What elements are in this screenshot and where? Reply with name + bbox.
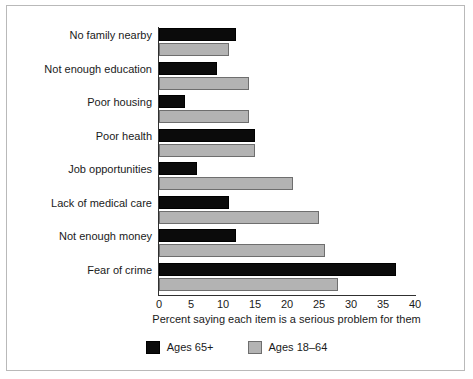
chart-legend: Ages 65+Ages 18–64: [0, 338, 473, 356]
x-tick-label: 40: [400, 298, 430, 311]
category-label: Poor health: [4, 130, 152, 142]
x-tick-label: 15: [240, 298, 270, 311]
bar-group: [159, 228, 415, 262]
x-tick-label: 30: [336, 298, 366, 311]
legend-swatch-light: [248, 341, 262, 354]
bar-ages-65-plus: [159, 28, 236, 41]
legend-item: Ages 65+: [146, 341, 214, 354]
bar-ages-65-plus: [159, 263, 396, 276]
bar-group: [159, 128, 415, 162]
x-tick-label: 25: [304, 298, 334, 311]
bar-ages-65-plus: [159, 196, 229, 209]
legend-swatch-dark: [146, 341, 160, 354]
bar-chart-figure: No family nearbyNot enough educationPoor…: [0, 0, 473, 379]
x-tick-label: 0: [144, 298, 174, 311]
bar-ages-18-64: [159, 110, 249, 123]
legend-label: Ages 18–64: [269, 341, 328, 354]
bar-group: [159, 195, 415, 229]
category-label: No family nearby: [4, 29, 152, 41]
category-label: Lack of medical care: [4, 197, 152, 209]
legend-item: Ages 18–64: [248, 341, 328, 354]
x-tick-label: 10: [208, 298, 238, 311]
category-label: Fear of crime: [4, 264, 152, 276]
x-axis-title: Percent saying each item is a serious pr…: [0, 313, 473, 326]
bar-ages-18-64: [159, 211, 319, 224]
bar-group: [159, 161, 415, 195]
plot-area: [159, 27, 415, 295]
bar-ages-65-plus: [159, 62, 217, 75]
bar-ages-65-plus: [159, 162, 197, 175]
bar-ages-65-plus: [159, 229, 236, 242]
x-tick-label: 5: [176, 298, 206, 311]
bar-ages-18-64: [159, 278, 338, 291]
x-tick-label: 20: [272, 298, 302, 311]
bar-ages-18-64: [159, 244, 325, 257]
bar-ages-18-64: [159, 43, 229, 56]
x-axis-line: [158, 295, 416, 296]
bar-ages-65-plus: [159, 129, 255, 142]
legend-label: Ages 65+: [167, 341, 214, 354]
bar-ages-18-64: [159, 144, 255, 157]
bar-group: [159, 94, 415, 128]
bar-ages-18-64: [159, 177, 293, 190]
category-label: Not enough education: [4, 63, 152, 75]
category-labels: No family nearbyNot enough educationPoor…: [0, 27, 152, 295]
bar-group: [159, 27, 415, 61]
x-tick-label: 35: [368, 298, 398, 311]
bar-ages-18-64: [159, 77, 249, 90]
category-label: Job opportunities: [4, 163, 152, 175]
category-label: Not enough money: [4, 230, 152, 242]
bar-ages-65-plus: [159, 95, 185, 108]
bar-group: [159, 61, 415, 95]
x-axis-tick-labels: 0510152025303540: [0, 298, 473, 312]
x-axis-title-text: Percent saying each item is a serious pr…: [152, 313, 420, 325]
category-label: Poor housing: [4, 96, 152, 108]
bar-group: [159, 262, 415, 296]
